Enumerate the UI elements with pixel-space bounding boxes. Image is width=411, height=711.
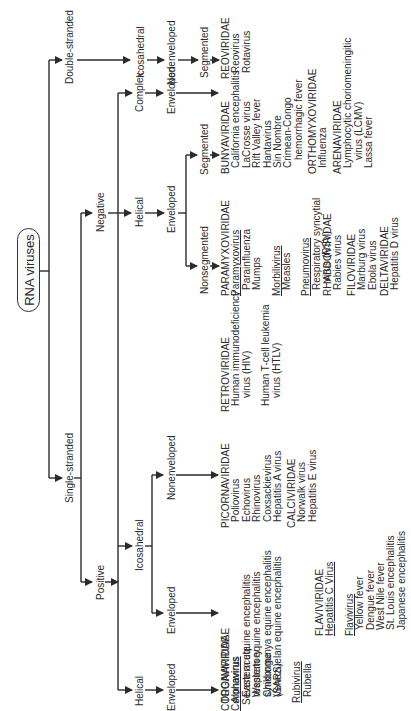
family-flaviviridae: FLAVIVIRIDAE Hepatitis C Virus Flaviviru…	[315, 531, 407, 636]
family-deltaviridae: DELTAVIRIDAE Hepatitis D virus	[380, 217, 401, 296]
label-ds-segmented: Segmented	[199, 27, 210, 78]
family-picornaviridae: PICORNAVIRIDAE Poliovirus Echovirus Rhin…	[221, 443, 283, 528]
label-pos-helical-enveloped: Enveloped	[166, 664, 177, 711]
member: Hepatitis D virus	[390, 217, 400, 296]
label-pos-ico-nonenveloped: Nonenveloped	[166, 436, 177, 501]
family-bunyaviridae: BUNYAVIRIDAE California encephalitis LaC…	[221, 70, 304, 174]
label-pos-ico-enveloped: Enveloped	[166, 587, 177, 634]
member: Measles	[282, 198, 292, 296]
member: Rubella	[303, 550, 313, 703]
member: Japanese encephalitis	[397, 531, 407, 636]
family-arenaviridae: ARENAVIRIDAE Lymphocytic choriomeningiti…	[333, 38, 375, 174]
label-negative: Negative	[95, 193, 106, 232]
member: Rabies virus	[333, 213, 343, 296]
family-retroviridae: RETROVIRIDAE Human immunodeficiency viru…	[221, 291, 282, 412]
root-node-rna-viruses: RNA viruses	[17, 228, 40, 312]
family-orthomyxoviridae: ORTHOMYXOVIRIDAE Influenza	[308, 69, 329, 174]
family-calciviridae: CALCIVIRIDAE Norwalk virus Hepatitis E v…	[287, 450, 318, 528]
family-coronaviridae: CORONAVIRIDAE Coronavirus Severe acute r…	[221, 628, 283, 711]
member: Ebola virus	[368, 229, 378, 296]
label-single-stranded: Single-stranded	[64, 433, 75, 503]
member: Hepatitis E virus	[308, 450, 318, 528]
root-label: RNA viruses	[21, 234, 36, 306]
member: Hepatitis A virus	[273, 443, 283, 528]
label-pos-helical: Helical	[134, 676, 145, 706]
label-ds-icosahedral: Icosahedral	[135, 26, 146, 78]
family-paramyxoviridae: PARAMYXOVIRIDAE Paramyxovirus Parainflue…	[221, 198, 333, 296]
member: (SARS)	[273, 628, 283, 711]
label-neg-enveloped: Enveloped	[166, 186, 177, 233]
member: virus (HIV)	[242, 291, 252, 412]
genus-name: Hepatitis C Virus	[325, 531, 335, 636]
label-pos-complex: Complex	[134, 73, 145, 112]
label-neg-nonsegmented: Nonsegmented	[199, 226, 210, 294]
member: Mumps	[252, 198, 262, 296]
member: Lassa fever	[364, 38, 374, 174]
label-neg-segmented: Segmented	[199, 124, 210, 175]
family-rhabdoviridae: RHABDOVIRIDAE Rabies virus	[323, 213, 344, 296]
label-neg-helical: Helical	[134, 197, 145, 227]
member: virus (HTLV)	[272, 291, 282, 412]
label-pos-icosahedral: Icosahedral	[134, 519, 145, 571]
label-double-stranded: Double-stranded	[64, 10, 75, 84]
label-pos-complex-enveloped: Enveloped	[166, 67, 177, 114]
label-positive: Positive	[95, 565, 106, 600]
family-filoviridae: FILOVIRIDAE Marburg virus Ebola virus	[347, 229, 378, 296]
member: hemorrhagic fever	[294, 70, 304, 174]
member: Influenza	[318, 69, 328, 174]
